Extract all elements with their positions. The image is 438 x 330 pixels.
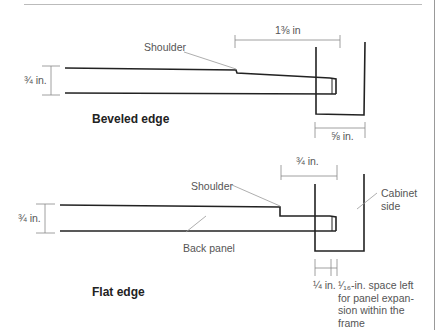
beveled-panel <box>65 68 336 94</box>
beveled-thickness-dim: ¾ in. <box>24 74 47 86</box>
cabinet-side-line-1: Cabinet <box>381 187 417 200</box>
beveled-length-dim: 1⅜ in <box>275 24 301 36</box>
beveled-edge-title: Beveled edge <box>92 112 169 126</box>
cabinet-side-line-2: side <box>381 200 417 213</box>
flat-cabinet-side <box>315 174 364 251</box>
expansion-note-line-4: frame <box>338 317 414 330</box>
flat-gap-dim: ¼ in. <box>313 279 336 291</box>
beveled-groove-dim: ⅝ in. <box>331 130 354 142</box>
back-panel-label: Back panel <box>183 242 235 254</box>
expansion-note-line-3: sion within the <box>338 304 414 317</box>
beveled-cabinet-side <box>316 42 365 115</box>
flat-panel <box>60 205 336 231</box>
flat-shoulder-label: Shoulder <box>191 180 233 192</box>
expansion-note-line-1: ¹⁄₁₆-in. space left <box>338 279 414 292</box>
flat-edge-title: Flat edge <box>92 285 145 299</box>
beveled-shoulder-label: Shoulder <box>144 41 186 53</box>
expansion-space-note: ¹⁄₁₆-in. space left for panel expan- sio… <box>338 279 414 329</box>
flat-thickness-dim: ¾ in. <box>18 212 41 224</box>
cabinet-side-label: Cabinet side <box>381 187 417 212</box>
expansion-note-line-2: for panel expan- <box>338 292 414 305</box>
flat-top-dim: ¾ in. <box>296 155 319 167</box>
